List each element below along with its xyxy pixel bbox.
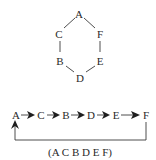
chain-node-e: E [113,109,120,121]
edge-e-d [86,66,95,72]
chain-node-a: A [12,109,20,121]
arrow-c-b-icon [47,111,60,119]
chain-node-f: F [143,109,149,121]
edge-b-d [66,66,74,72]
hexagon-edges [60,18,100,72]
chain-node-c: C [37,109,44,121]
hex-node-e: E [97,55,104,67]
arrow-d-e-icon [97,111,110,119]
hex-node-d: D [76,72,84,84]
arrow-e-f-icon [121,111,140,119]
chain-node-b: B [62,109,69,121]
chain-node-d: D [87,109,95,121]
sequence-caption: (A C B D E F) [48,146,112,159]
arrow-b-d-icon [71,111,85,119]
hex-node-c: C [55,28,62,40]
hexagon-nodes: A C F B E D [55,8,103,84]
edge-a-c [64,18,75,28]
cycle-diagram: A C F B E D A C B D E F [0,0,156,160]
hex-node-b: B [56,55,63,67]
hex-node-a: A [75,8,83,20]
edge-a-f [84,18,95,28]
feedback-arrow [11,120,146,140]
hex-node-f: F [97,28,103,40]
arrow-a-c-icon [21,111,35,119]
